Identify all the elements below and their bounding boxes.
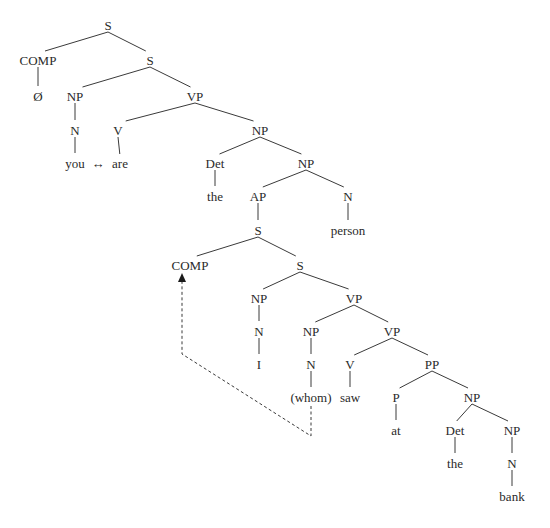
- node-you: you: [65, 156, 85, 171]
- node-v2: V: [345, 357, 355, 372]
- node-pp: PP: [425, 357, 439, 372]
- branch-s_root-s2: [108, 32, 146, 51]
- node-person: person: [331, 223, 366, 238]
- node-at: at: [391, 423, 401, 438]
- node-np1: NP: [67, 89, 84, 104]
- branch-vp3-pp: [392, 338, 428, 355]
- node-n5: N: [507, 456, 517, 471]
- node-comp1: COMP: [20, 53, 57, 68]
- node-saw: saw: [340, 390, 361, 405]
- node-n4: N: [306, 357, 316, 372]
- node-null: Ø: [33, 89, 42, 104]
- branch-s2-vp1: [150, 67, 191, 87]
- node-det1: Det: [206, 156, 225, 171]
- node-det2: Det: [446, 423, 465, 438]
- node-vp1: VP: [187, 89, 204, 104]
- branch-s4-vp2: [300, 272, 349, 289]
- branch-np3-ap: [263, 170, 306, 187]
- branch-np2-det1: [220, 137, 261, 154]
- node-s_root: S: [104, 18, 111, 33]
- branch-vp1-v1: [126, 103, 195, 121]
- branch-s4-np4: [263, 272, 300, 289]
- node-vp2: VP: [346, 291, 363, 306]
- movement-trace-line: [182, 278, 311, 436]
- node-n1: N: [70, 123, 80, 138]
- branch-s_root-comp1: [45, 32, 108, 51]
- branch-vp2-vp3: [354, 305, 388, 322]
- node-whom: (whom): [290, 390, 331, 405]
- branch-vp3-v2: [354, 338, 392, 355]
- node-the2: the: [447, 456, 463, 471]
- node-p: P: [392, 390, 399, 405]
- branch-vp2-np5: [315, 305, 354, 322]
- bidirectional-arrow-icon: ↔: [92, 156, 105, 171]
- branch-np2-np3: [260, 137, 301, 154]
- node-ap: AP: [250, 189, 267, 204]
- tree-branches: [38, 32, 512, 486]
- branch-np6-det2: [457, 404, 472, 421]
- branch-np6-np7: [472, 404, 508, 421]
- syntax-tree-diagram: SCOMPØSNPNyou↔VPVareNPDettheNPAPSNperson…: [0, 0, 550, 528]
- node-the1: the: [207, 189, 223, 204]
- node-s2: S: [146, 53, 153, 68]
- node-s4: S: [296, 258, 303, 273]
- branch-pp-p: [400, 371, 432, 388]
- node-np4: NP: [251, 291, 268, 306]
- node-comp2: COMP: [172, 258, 209, 273]
- node-np3: NP: [298, 156, 315, 171]
- node-n3: N: [254, 324, 264, 339]
- branch-v1-are: [118, 137, 120, 154]
- arrowhead-up-icon: [178, 273, 186, 282]
- node-bank: bank: [499, 489, 525, 504]
- node-np5: NP: [303, 324, 320, 339]
- branch-s3-s4: [258, 237, 296, 256]
- branch-vp1-np2: [195, 103, 254, 121]
- branch-pp-np6: [432, 371, 468, 388]
- node-s3: S: [254, 223, 261, 238]
- movement-arrow: [178, 273, 311, 436]
- node-n2: N: [343, 189, 353, 204]
- branch-np3-n2: [306, 170, 344, 187]
- node-are: are: [112, 156, 128, 171]
- node-v1: V: [113, 123, 123, 138]
- branch-s2-np1: [83, 67, 151, 87]
- node-vp3: VP: [384, 324, 401, 339]
- tree-nodes: SCOMPØSNPNyou↔VPVareNPDettheNPAPSNperson…: [20, 18, 526, 504]
- node-i: I: [257, 357, 261, 372]
- node-np6: NP: [464, 390, 481, 405]
- node-np7: NP: [504, 423, 521, 438]
- node-np2: NP: [252, 123, 269, 138]
- branch-s3-comp2: [197, 237, 258, 256]
